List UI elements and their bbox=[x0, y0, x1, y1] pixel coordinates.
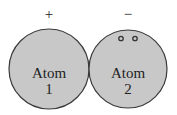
atom-1-number: 1 bbox=[19, 82, 79, 97]
atom-1-name: Atom bbox=[19, 66, 79, 81]
atom-2-number: 2 bbox=[98, 82, 158, 97]
atom-1-charge: + bbox=[42, 7, 56, 22]
atom-2-charge: − bbox=[121, 7, 135, 22]
atoms-diagram bbox=[0, 0, 177, 115]
atom-2-name: Atom bbox=[98, 66, 158, 81]
